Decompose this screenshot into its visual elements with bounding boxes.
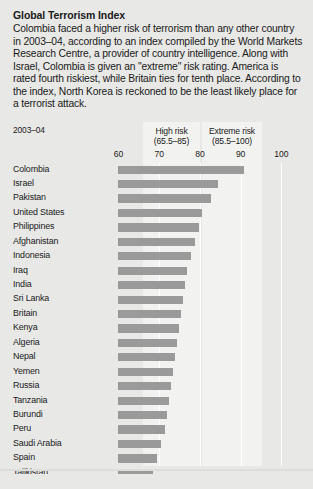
value-bar [118, 324, 179, 332]
x-axis-ticks: 60708090100 [0, 149, 313, 161]
chart-row: Britain [0, 307, 313, 321]
value-bar [118, 252, 191, 260]
chart-row: Saudi Arabia [0, 437, 313, 451]
country-label: Pakistan [13, 192, 46, 202]
country-label: Iraq [13, 265, 28, 275]
value-bar [118, 296, 183, 304]
value-bar [118, 310, 181, 318]
chart-row: Indonesia [0, 250, 313, 264]
country-label: Saudi Arabia [13, 438, 62, 448]
chart-footer-strip [0, 474, 313, 489]
risk-band-extreme-label: Extreme risk (85.5–100) [202, 126, 262, 147]
chart-row: Sri Lanka [0, 293, 313, 307]
chart-period-label: 2003–04 [13, 125, 45, 135]
value-bar [118, 180, 218, 188]
country-label: Peru [13, 423, 31, 433]
value-bar [118, 440, 161, 448]
x-tick-60: 60 [114, 149, 123, 159]
value-bar [118, 382, 171, 390]
risk-band-high-title: High risk [155, 126, 187, 136]
risk-band-high-range: (65.5–85) [143, 136, 200, 146]
country-label: Yemen [13, 366, 40, 376]
country-label: Tanzania [13, 395, 47, 405]
risk-band-extreme-title: Extreme risk [209, 126, 255, 136]
value-bar [118, 267, 187, 275]
chart-row: Afghanistan [0, 235, 313, 249]
chart-row: Kenya [0, 322, 313, 336]
country-label: Burundi [13, 409, 43, 419]
bar-rows-container: ColombiaIsraelPakistanUnited StatesPhili… [0, 163, 313, 466]
article-header: Global Terrorism Index Colombia faced a … [13, 9, 303, 111]
chart-row: Yemen [0, 365, 313, 379]
chart-row: Algeria [0, 336, 313, 350]
value-bar [118, 411, 167, 419]
country-label: Britain [13, 308, 37, 318]
chart-row: Nepal [0, 351, 313, 365]
chart-row: Philippines [0, 221, 313, 235]
value-bar [118, 454, 157, 462]
country-label: Israel [13, 178, 34, 188]
country-label: Philippines [13, 221, 54, 231]
value-bar [118, 368, 173, 376]
terrorism-index-chart: 2003–04 High risk (65.5–85) Extreme risk… [0, 122, 313, 489]
chart-bottom-rule [0, 469, 313, 471]
chart-row: Israel [0, 177, 313, 191]
value-bar [118, 339, 177, 347]
article-body-text: Colombia faced a higher risk of terroris… [13, 23, 303, 111]
risk-band-high-label: High risk (65.5–85) [143, 126, 200, 147]
chart-row: United States [0, 206, 313, 220]
value-bar [118, 238, 195, 246]
country-label: Colombia [13, 164, 49, 174]
country-label: United States [13, 207, 64, 217]
x-tick-90: 90 [236, 149, 245, 159]
chart-row: Colombia [0, 163, 313, 177]
value-bar [118, 166, 244, 174]
chart-row: Tanzania [0, 394, 313, 408]
chart-row: Burundi [0, 408, 313, 422]
country-label: Afghanistan [13, 236, 58, 246]
x-tick-70: 70 [155, 149, 164, 159]
country-label: Sri Lanka [13, 293, 49, 303]
chart-row: Iraq [0, 264, 313, 278]
chart-row: India [0, 279, 313, 293]
x-tick-100: 100 [274, 149, 288, 159]
value-bar [118, 397, 169, 405]
page-title: Global Terrorism Index [13, 9, 303, 22]
country-label: Spain [13, 452, 35, 462]
value-bar [118, 194, 211, 202]
chart-row: Spain [0, 452, 313, 466]
country-label: Algeria [13, 337, 40, 347]
country-label: Nepal [13, 351, 35, 361]
infographic-panel: Global Terrorism Index Colombia faced a … [0, 0, 313, 489]
value-bar [118, 353, 175, 361]
country-label: Russia [13, 380, 39, 390]
risk-band-extreme-range: (85.5–100) [202, 136, 262, 146]
chart-row: Peru [0, 423, 313, 437]
country-label: Kenya [13, 322, 37, 332]
chart-row: Russia [0, 380, 313, 394]
value-bar [118, 223, 199, 231]
x-tick-80: 80 [195, 149, 204, 159]
value-bar [118, 281, 185, 289]
country-label: Indonesia [13, 250, 50, 260]
value-bar [118, 425, 165, 433]
country-label: India [13, 279, 32, 289]
chart-row: Pakistan [0, 192, 313, 206]
value-bar [118, 209, 202, 217]
